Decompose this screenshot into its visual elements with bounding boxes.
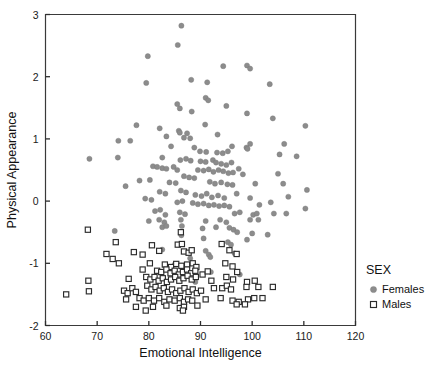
data-point-male — [205, 269, 210, 274]
data-point-female — [180, 199, 185, 204]
data-point-female — [195, 167, 200, 172]
data-point-female — [188, 158, 193, 163]
data-point-female — [149, 197, 154, 202]
data-point-female — [145, 54, 150, 59]
data-point-female — [211, 202, 216, 207]
data-point-male — [126, 276, 131, 281]
y-tick-label: 1 — [33, 133, 39, 145]
data-point-female — [229, 160, 234, 165]
x-tick-label: 80 — [143, 330, 155, 342]
data-point-female — [205, 80, 210, 85]
data-point-female — [179, 23, 184, 28]
data-point-male — [141, 298, 146, 303]
data-point-female — [168, 144, 173, 149]
data-point-female — [248, 195, 253, 200]
data-point-female — [213, 225, 218, 230]
data-point-female — [221, 169, 226, 174]
data-point-male — [252, 296, 257, 301]
data-point-female — [250, 231, 255, 236]
data-point-female — [208, 254, 213, 259]
data-point-female — [253, 181, 258, 186]
data-point-male — [227, 248, 232, 253]
data-point-female — [237, 210, 242, 215]
data-point-female — [219, 161, 224, 166]
data-point-female — [184, 131, 189, 136]
data-point-female — [203, 218, 208, 223]
data-point-female — [173, 180, 178, 185]
data-point-female — [164, 223, 169, 228]
data-point-male — [64, 292, 69, 297]
data-point-female — [203, 159, 208, 164]
data-point-female — [201, 236, 206, 241]
data-point-female — [115, 155, 120, 160]
data-point-female — [248, 217, 253, 222]
data-point-female — [181, 135, 186, 140]
data-point-female — [232, 211, 237, 216]
data-point-male — [203, 297, 208, 302]
data-point-female — [275, 171, 280, 176]
data-point-female — [215, 132, 220, 137]
data-point-female — [303, 123, 308, 128]
data-point-female — [286, 194, 291, 199]
data-point-male — [224, 274, 229, 279]
y-tick-label: -1 — [29, 257, 38, 269]
data-point-female — [216, 167, 221, 172]
data-point-male — [230, 277, 235, 282]
data-point-male — [219, 241, 224, 246]
data-point-female — [201, 168, 206, 173]
x-tick-label: 70 — [91, 330, 103, 342]
data-point-male — [157, 296, 162, 301]
data-point-female — [214, 150, 219, 155]
data-point-female — [207, 179, 212, 184]
data-point-male — [124, 297, 129, 302]
data-point-male — [193, 268, 198, 273]
x-tick-label: 120 — [347, 330, 365, 342]
y-tick-label: 3 — [33, 9, 39, 21]
data-point-female — [245, 146, 250, 151]
data-point-female — [206, 167, 211, 172]
data-point-female — [175, 42, 180, 47]
data-point-female — [175, 200, 180, 205]
data-point-male — [209, 278, 214, 283]
data-point-male — [133, 289, 138, 294]
data-point-male — [133, 304, 138, 309]
x-tick-label: 90 — [195, 330, 207, 342]
data-point-female — [199, 194, 204, 199]
data-point-female — [157, 189, 162, 194]
data-point-male — [270, 284, 275, 289]
data-point-female — [270, 116, 275, 121]
data-point-female — [294, 154, 299, 159]
data-point-male — [149, 243, 154, 248]
legend-males-marker-icon — [371, 302, 377, 308]
data-point-male — [256, 284, 261, 289]
data-point-female — [224, 162, 229, 167]
data-point-male — [178, 230, 183, 235]
data-point-female — [152, 208, 157, 213]
data-point-female — [193, 192, 198, 197]
data-point-female — [177, 210, 182, 215]
data-point-female — [303, 206, 308, 211]
y-tick-label: 0 — [33, 195, 39, 207]
x-tick-label: 110 — [295, 330, 312, 342]
data-point-female — [157, 217, 162, 222]
data-point-female — [189, 77, 194, 82]
data-point-male — [104, 251, 109, 256]
data-point-male — [157, 248, 162, 253]
data-point-male — [218, 296, 223, 301]
data-point-male — [180, 308, 185, 313]
legend-label-females: Females — [382, 283, 425, 295]
data-point-female — [190, 200, 195, 205]
data-point-male — [147, 261, 152, 266]
data-point-female — [203, 122, 208, 127]
data-point-male — [230, 264, 235, 269]
data-point-female — [187, 175, 192, 180]
data-point-female — [147, 177, 152, 182]
data-point-female — [224, 220, 229, 225]
data-point-male — [200, 272, 205, 277]
data-point-male — [179, 263, 184, 268]
data-point-female — [218, 217, 223, 222]
data-point-female — [256, 217, 261, 222]
data-point-female — [244, 111, 249, 116]
data-point-female — [254, 211, 259, 216]
data-point-female — [211, 169, 216, 174]
